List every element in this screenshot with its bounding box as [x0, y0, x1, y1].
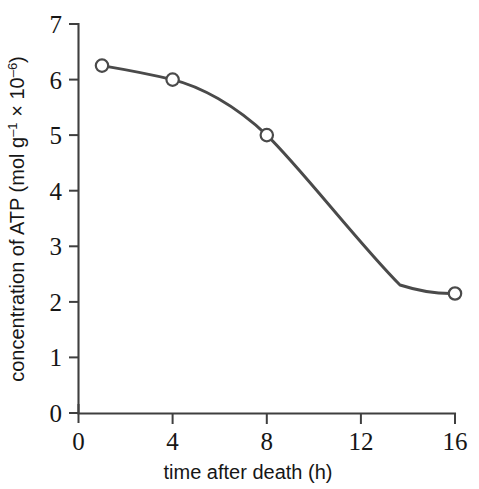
chart-canvas: 7 6 5 4 3 2 1 0 0 4 8 12 16 concent — [0, 0, 479, 489]
y-tick-label-3: 3 — [50, 233, 63, 260]
data-point-1h — [96, 59, 108, 71]
y-axis-title-mid: × 10 — [6, 77, 28, 122]
y-tick-label-1: 1 — [50, 344, 63, 371]
x-tick-label-4: 4 — [166, 428, 179, 455]
y-tick-label-0: 0 — [50, 400, 63, 427]
y-axis-title-sup1: –1 — [5, 122, 20, 136]
y-axis-title: concentration of ATP (mol g–1 × 10–6) — [5, 56, 28, 382]
x-tick-label-0: 0 — [72, 428, 85, 455]
y-tick-label-7: 7 — [50, 11, 63, 38]
y-tick-label-4: 4 — [50, 178, 63, 205]
y-tick-label-5: 5 — [50, 122, 63, 149]
y-tick-label-6: 6 — [50, 67, 63, 94]
y-axis-title-sup2: –6 — [5, 63, 20, 77]
x-tick-label-16: 16 — [443, 428, 468, 455]
y-axis-title-prefix: concentration of ATP (mol g — [6, 137, 28, 382]
x-tick-label-8: 8 — [261, 428, 274, 455]
data-point-16h — [449, 287, 461, 299]
data-point-markers — [96, 59, 461, 299]
data-series-line — [102, 66, 455, 294]
y-tick-label-2: 2 — [50, 289, 63, 316]
x-tick-label-12: 12 — [348, 428, 373, 455]
x-axis-title: time after death (h) — [164, 461, 333, 483]
data-point-8h — [261, 129, 273, 141]
y-axis-title-suffix: ) — [6, 56, 28, 63]
atp-concentration-chart: 7 6 5 4 3 2 1 0 0 4 8 12 16 concent — [0, 0, 479, 489]
data-point-4h — [166, 73, 178, 85]
